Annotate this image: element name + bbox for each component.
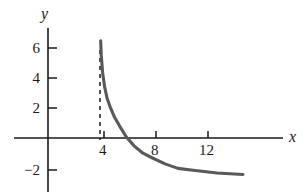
- x-tick-label-12: 12: [199, 143, 214, 158]
- y-axis-ticks: [48, 48, 57, 170]
- figure-logarithmic-curve: 6 4 2 −2 4 8 12 y x: [0, 0, 308, 192]
- x-axis-ticks: [104, 131, 208, 138]
- y-tick-label-6: 6: [24, 41, 40, 56]
- y-tick-label-2: 2: [24, 101, 40, 116]
- plot-area: [0, 0, 308, 192]
- x-axis-label: x: [289, 129, 296, 145]
- x-tick-label-4: 4: [99, 143, 107, 158]
- curve-path: [101, 41, 243, 175]
- y-tick-label-neg-2: −2: [14, 163, 40, 178]
- x-tick-label-8: 8: [151, 143, 159, 158]
- y-axis-label: y: [41, 6, 48, 22]
- y-tick-label-4: 4: [24, 71, 40, 86]
